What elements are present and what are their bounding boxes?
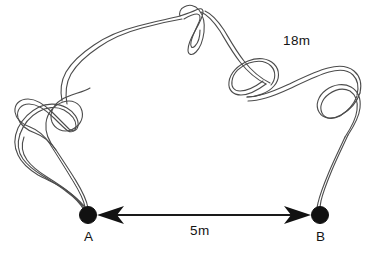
rope-loop-upper-left	[46, 88, 90, 150]
diagram-canvas	[0, 0, 389, 257]
rope-top-to-right-2	[205, 11, 270, 83]
rope-loop-top-center-inner	[184, 14, 200, 47]
distance-label: 5m	[190, 223, 210, 238]
point-b-dot	[312, 207, 329, 224]
rope-loop-right	[317, 85, 360, 135]
rope-outer-edge	[15, 99, 85, 207]
rope-top-left-rise	[61, 16, 180, 101]
point-a-label: A	[84, 229, 93, 244]
point-b-label: B	[316, 229, 325, 244]
rope-right-descent	[320, 135, 348, 210]
rope-length-label: 18m	[283, 33, 310, 48]
rope-diagram-figure: 18m 5m A B	[0, 0, 389, 257]
dimension-arrow-group	[97, 206, 311, 224]
point-a-dot	[80, 207, 97, 224]
